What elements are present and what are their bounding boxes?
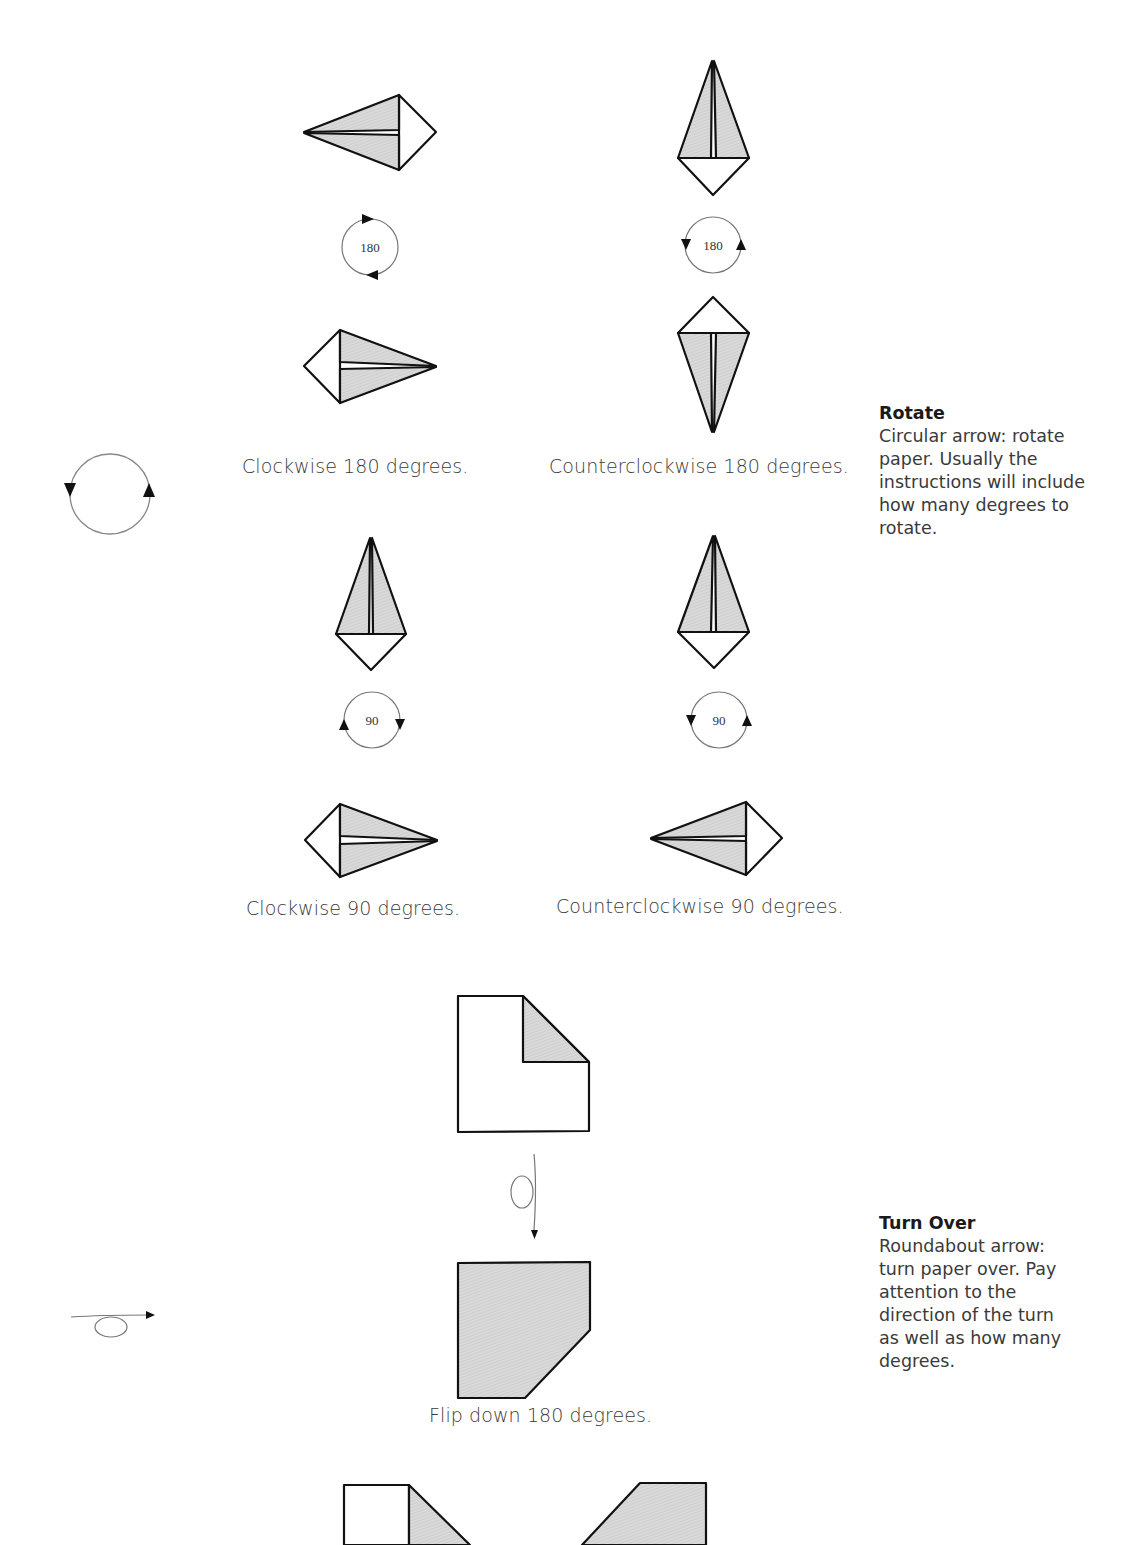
kite-right-after-cw180: [304, 330, 436, 403]
caption-cw-90: Clockwise 90 degrees.: [246, 897, 460, 919]
rotate-desc-line: how many degrees to: [879, 494, 1129, 517]
turn-over-desc-line: direction of the turn: [879, 1304, 1129, 1327]
degree-label: 180: [703, 238, 723, 253]
caption-cw-180: Clockwise 180 degrees.: [242, 455, 468, 477]
kite-left-after-ccw90: [651, 802, 782, 875]
pentagon-after-flip: [458, 1262, 590, 1398]
rotate-ccw-90-icon: 90: [686, 692, 752, 748]
turn-over-desc-line: degrees.: [879, 1350, 1129, 1373]
turn-over-desc-line: Roundabout arrow:: [879, 1235, 1129, 1258]
turn-over-note: Turn Over Roundabout arrow: turn paper o…: [879, 1212, 1129, 1373]
kite-left-before-cw180: [304, 95, 436, 170]
rotate-desc-line: instructions will include: [879, 471, 1129, 494]
kite-down-after-ccw180: [678, 297, 749, 432]
roundabout-arrow-down-icon: [511, 1154, 538, 1239]
rotate-desc-line: paper. Usually the: [879, 448, 1129, 471]
rotate-note: Rotate Circular arrow: rotate paper. Usu…: [879, 402, 1129, 540]
square-folded-corner-before-flip: [458, 996, 589, 1132]
kite-right-after-cw90: [305, 804, 437, 877]
caption-flip-down: Flip down 180 degrees.: [429, 1404, 652, 1426]
rotate-heading: Rotate: [879, 402, 1129, 425]
partial-square-bottom-left: [344, 1485, 470, 1545]
rotate-cw-180-icon: 180: [342, 214, 398, 280]
circular-arrow-symbol-icon: [64, 454, 155, 534]
turn-over-desc-line: turn paper over. Pay: [879, 1258, 1129, 1281]
partial-shape-bottom-right: [582, 1483, 706, 1545]
degree-label: 180: [360, 240, 380, 255]
caption-ccw-90: Counterclockwise 90 degrees.: [556, 895, 844, 917]
rotate-ccw-180-icon: 180: [681, 217, 746, 273]
turn-over-heading: Turn Over: [879, 1212, 1129, 1235]
kite-up-before-ccw180: [678, 61, 749, 195]
degree-label: 90: [366, 713, 379, 728]
rotate-cw-90-icon: 90: [339, 692, 405, 748]
rotate-desc-line: rotate.: [879, 517, 1129, 540]
kite-up-before-ccw90: [678, 536, 749, 668]
degree-label: 90: [713, 713, 726, 728]
kite-up-before-cw90: [336, 538, 406, 670]
caption-ccw-180: Counterclockwise 180 degrees.: [549, 455, 849, 477]
turn-over-desc-line: as well as how many: [879, 1327, 1129, 1350]
turn-over-desc-line: attention to the: [879, 1281, 1129, 1304]
roundabout-arrow-symbol-icon: [71, 1311, 155, 1337]
rotate-desc-line: Circular arrow: rotate: [879, 425, 1129, 448]
